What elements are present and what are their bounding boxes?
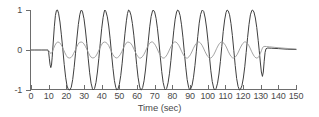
- plot-area: [31, 10, 296, 90]
- series-line-small-amplitude-response: [31, 42, 296, 58]
- series-canvas: [31, 10, 296, 90]
- x-tick-label: 150: [283, 92, 309, 101]
- x-axis-title: Time (sec): [0, 103, 319, 113]
- chart-figure: 10-1 01020304050607080901001101201301401…: [0, 0, 319, 117]
- series-line-large-amplitude-response: [31, 10, 296, 90]
- x-tick-mark: [296, 85, 297, 90]
- y-tick-label: 1: [0, 6, 22, 15]
- y-tick-label: 0: [0, 46, 22, 55]
